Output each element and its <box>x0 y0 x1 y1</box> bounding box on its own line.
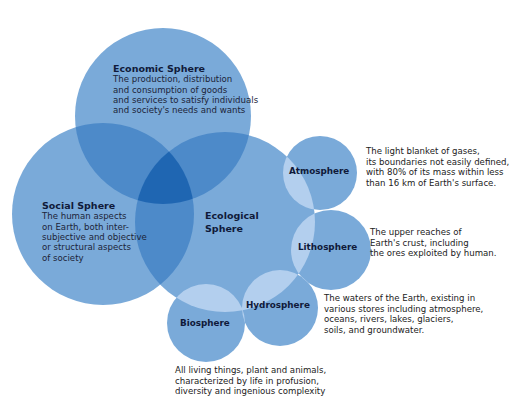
atmosphere-desc-line: The light blanket of gases, <box>366 146 509 157</box>
lithosphere-title: Lithosphere <box>298 242 357 253</box>
biosphere-title: Biosphere <box>180 318 230 329</box>
economic-sphere-title: Economic Sphere <box>113 63 258 74</box>
social-desc-line: on Earth, both inter- <box>42 222 147 232</box>
hydrosphere-desc-line: The waters of the Earth, existing in <box>324 293 483 304</box>
social-sphere-label: Social Sphere The human aspects on Earth… <box>42 200 147 263</box>
lithosphere-desc-line: Earth's crust, including <box>370 238 496 249</box>
hydrosphere-description: The waters of the Earth, existing in var… <box>324 293 483 336</box>
economic-desc-line: and consumption of goods <box>113 85 258 95</box>
atmosphere-desc-line: its boundaries not easily defined, <box>366 157 509 168</box>
biosphere-description: All living things, plant and animals, ch… <box>175 365 326 397</box>
biosphere-desc-line: characterized by life in profusion, <box>175 376 326 387</box>
social-desc-line: of society <box>42 253 147 263</box>
lithosphere-desc-line: the ores exploited by human. <box>370 248 496 259</box>
hydrosphere-desc-line: soils, and groundwater. <box>324 325 483 336</box>
biosphere-desc-line: All living things, plant and animals, <box>175 365 326 376</box>
economic-desc-line: and society's needs and wants <box>113 105 258 115</box>
economic-desc-line: and services to satisfy individuals <box>113 95 258 105</box>
biosphere-desc-line: diversity and ingenious complexity <box>175 386 326 397</box>
hydrosphere-title: Hydrosphere <box>246 300 310 311</box>
economic-sphere-label: Economic Sphere The production, distribu… <box>113 63 258 116</box>
hydrosphere-desc-line: various stores including atmosphere, <box>324 304 483 315</box>
social-desc-line: The human aspects <box>42 211 147 221</box>
economic-desc-line: The production, distribution <box>113 74 258 84</box>
ecological-title-line: Sphere <box>205 223 259 234</box>
lithosphere-desc-line: The upper reaches of <box>370 227 496 238</box>
social-desc-line: subjective and objective <box>42 232 147 242</box>
social-sphere-title: Social Sphere <box>42 200 147 211</box>
atmosphere-title: Atmosphere <box>289 166 349 177</box>
atmosphere-desc-line: with 80% of its mass within less <box>366 167 509 178</box>
atmosphere-description: The light blanket of gases, its boundari… <box>366 146 509 189</box>
lithosphere-description: The upper reaches of Earth's crust, incl… <box>370 227 496 259</box>
social-desc-line: or structural aspects <box>42 242 147 252</box>
atmosphere-desc-line: than 16 km of Earth's surface. <box>366 178 509 189</box>
ecological-sphere-label: Ecological Sphere <box>205 210 259 235</box>
ecological-title-line: Ecological <box>205 210 259 221</box>
hydrosphere-desc-line: oceans, rivers, lakes, glaciers, <box>324 314 483 325</box>
